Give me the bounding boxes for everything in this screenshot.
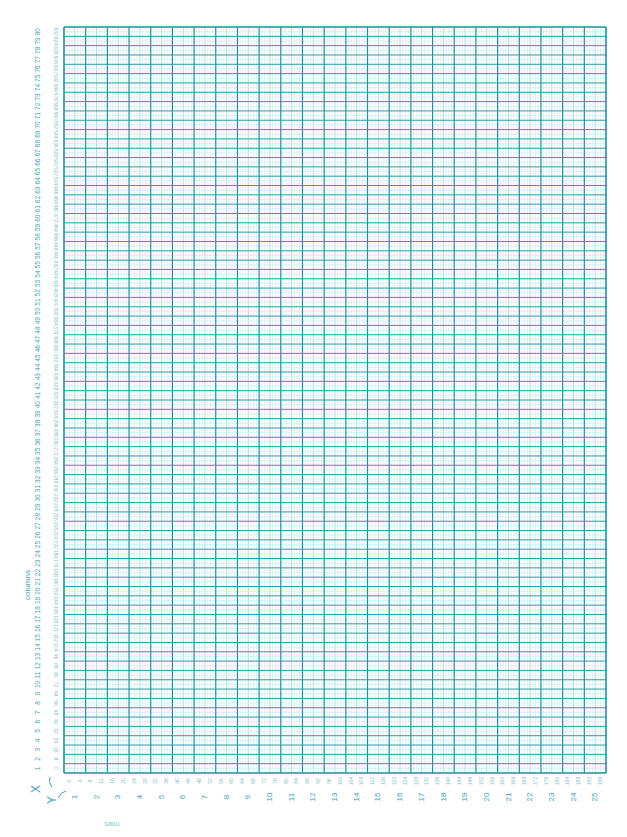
column-number: 69: [34, 130, 41, 138]
y-axis-label: Y: [45, 796, 59, 804]
y-pixel-value: 124: [402, 777, 408, 786]
x-pixel-value: 32: [53, 728, 59, 734]
row-number: 11: [287, 792, 296, 801]
row-number: 4: [135, 794, 144, 799]
column-number: 44: [34, 363, 41, 371]
y-pixel-value: 44: [185, 778, 191, 784]
x-pixel-value: 48: [53, 710, 59, 716]
column-number: 27: [34, 522, 41, 530]
column-number: 33: [34, 466, 41, 474]
x-pixel-value: 576: [53, 93, 59, 102]
y-pixel-value: 48: [196, 778, 202, 784]
column-number: 52: [34, 289, 41, 297]
column-number: 71: [34, 112, 41, 120]
row-number: 7: [200, 794, 209, 799]
column-number: 28: [34, 513, 41, 521]
columns-label: columns: [23, 570, 32, 600]
column-number: 26: [34, 531, 41, 539]
y-pixel-value: 152: [478, 777, 484, 786]
column-number: 41: [34, 391, 41, 399]
x-pixel-value: 536: [53, 139, 59, 148]
row-number: 12: [308, 792, 317, 801]
x-pixel-value: 320: [53, 391, 59, 400]
column-number: 2: [34, 757, 41, 761]
x-pixel-value: 280: [53, 438, 59, 447]
x-pixel-value: 184: [53, 550, 59, 559]
y-pixel-value: 188: [575, 777, 581, 786]
y-pixel-value: 164: [510, 777, 516, 786]
x-pixel-value: 272: [53, 447, 59, 456]
x-pixel-value: 216: [53, 512, 59, 521]
y-pixel-value: 68: [250, 778, 256, 784]
x-pixel-value: 112: [53, 634, 59, 642]
y-pixel-value: 184: [564, 777, 570, 786]
row-number: 18: [439, 792, 448, 801]
column-number: 80: [34, 28, 41, 36]
y-arrow-icon: [58, 791, 66, 798]
y-pixel-value: 0: [66, 779, 72, 782]
y-pixel-value: 8: [87, 779, 93, 782]
row-number: 22: [525, 792, 534, 801]
x-pixel-value: 312: [53, 400, 59, 409]
x-pixel-value: 584: [53, 83, 59, 92]
y-pixel-value: 108: [358, 777, 364, 786]
row-number: 23: [547, 792, 556, 801]
x-pixel-value: 568: [53, 102, 59, 111]
row-number: 9: [243, 794, 252, 799]
column-number: 55: [34, 261, 41, 269]
y-pixel-value: 28: [142, 778, 148, 784]
y-pixel-value: 84: [293, 778, 299, 784]
x-pixel-value: 248: [53, 475, 59, 484]
row-number: 10: [265, 792, 274, 801]
column-number: 42: [34, 382, 41, 390]
x-pixel-value: 296: [53, 419, 59, 428]
column-number: 67: [34, 149, 41, 157]
x-pixel-value: 416: [53, 279, 59, 288]
column-number: 32: [34, 475, 41, 483]
y-pixel-value: 120: [391, 777, 397, 786]
column-number: 16: [34, 624, 41, 632]
x-arrow-icon: [49, 777, 52, 787]
x-pixel-value: 256: [53, 466, 59, 475]
column-number: 11: [34, 671, 41, 678]
row-number: 17: [417, 792, 426, 801]
row-number: 6: [178, 794, 187, 799]
x-pixel-value: 56: [53, 700, 59, 706]
x-pixel-value: 440: [53, 251, 59, 260]
row-number: 16: [395, 792, 404, 801]
y-pixel-value: 140: [445, 777, 451, 786]
column-number: 23: [34, 559, 41, 567]
y-pixel-value: 96: [326, 778, 332, 784]
x-pixel-value: 200: [53, 531, 59, 540]
x-pixel-value: 224: [53, 503, 59, 512]
x-pixel-value: 624: [53, 37, 59, 46]
column-number: 30: [34, 494, 41, 502]
column-number: 4: [34, 738, 41, 742]
row-number: 13: [330, 792, 339, 801]
column-number: 37: [34, 429, 41, 437]
y-pixel-value: 132: [423, 777, 429, 786]
y-pixel-value: 136: [434, 777, 440, 786]
column-number: 57: [34, 242, 41, 250]
x-pixel-value: 480: [53, 205, 59, 214]
column-number: 75: [34, 74, 41, 82]
column-number: 13: [34, 652, 41, 660]
column-number: 49: [34, 317, 41, 325]
column-number: 59: [34, 223, 41, 231]
column-number: 60: [34, 214, 41, 222]
x-pixel-value: 176: [53, 559, 59, 568]
column-number: 73: [34, 93, 41, 101]
x-pixel-value: 384: [53, 317, 59, 326]
column-number: 47: [34, 335, 41, 343]
y-pixel-value: 52: [207, 778, 213, 784]
y-pixel-value: 32: [152, 778, 158, 784]
y-pixel-value: 180: [554, 777, 560, 786]
row-number: 20: [482, 792, 491, 801]
column-number: 6: [34, 720, 41, 724]
x-pixel-value: 408: [53, 289, 59, 298]
row-number: 1: [70, 794, 79, 799]
x-pixel-value: 96: [53, 654, 59, 660]
y-pixel-value: 192: [586, 777, 592, 786]
column-number: 24: [34, 550, 41, 558]
column-number: 58: [34, 233, 41, 241]
